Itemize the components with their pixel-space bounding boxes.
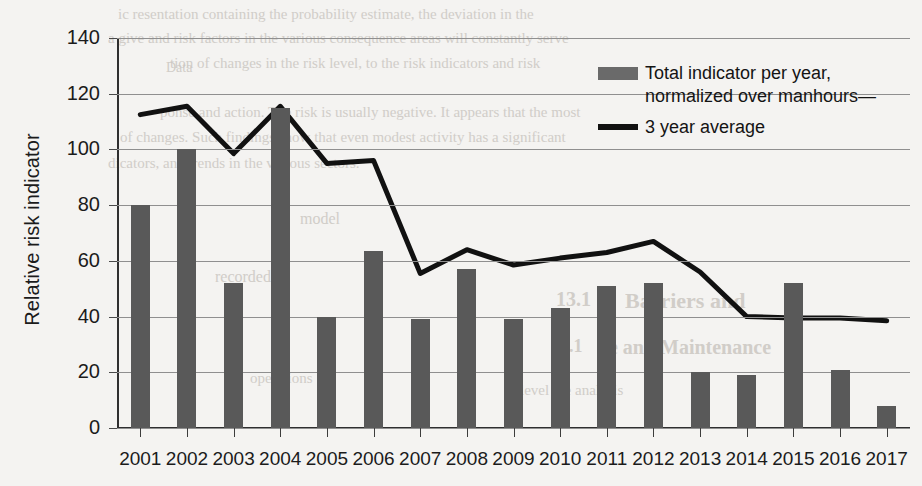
y-axis-tick [109, 205, 117, 206]
x-axis-label-2005: 2005 [306, 448, 348, 470]
y-axis-label: 120 [40, 82, 100, 105]
y-axis-tick [109, 149, 117, 150]
x-axis-label-2012: 2012 [632, 448, 674, 470]
legend-label-line: 3 year average [645, 116, 765, 139]
legend-item-line-series: 3 year average [598, 116, 908, 139]
y-axis-tick [109, 372, 117, 373]
chart-page: ic resentation containing the probabilit… [0, 0, 922, 486]
legend-label-bar: Total indicator per year, normalized ove… [645, 62, 876, 107]
x-axis-tick [514, 428, 515, 437]
x-axis-tick [793, 428, 794, 437]
x-axis-label-2009: 2009 [492, 448, 534, 470]
gridline [117, 149, 910, 150]
y-axis-tick [109, 261, 117, 262]
x-axis-tick [560, 428, 561, 437]
legend-label-bar-line1: Total indicator per year, [645, 63, 831, 83]
x-axis-label-2010: 2010 [539, 448, 581, 470]
legend-item-bar-series: Total indicator per year, normalized ove… [598, 62, 908, 107]
x-axis-tick [840, 428, 841, 437]
x-axis-tick [187, 428, 188, 437]
bar-2005 [317, 317, 336, 428]
x-axis-tick [374, 428, 375, 437]
x-axis-label-2002: 2002 [166, 448, 208, 470]
x-axis-label-2003: 2003 [212, 448, 254, 470]
y-axis-label: 60 [40, 249, 100, 272]
bar-2001 [131, 205, 150, 428]
y-axis-label: 20 [40, 360, 100, 383]
x-axis-tick [653, 428, 654, 437]
x-axis-tick [420, 428, 421, 437]
bar-2008 [457, 269, 476, 428]
y-axis-label: 80 [40, 193, 100, 216]
bar-2007 [411, 319, 430, 428]
y-axis-label: 0 [40, 416, 100, 439]
risk-indicator-chart: Relative risk indicator 0204060801001201… [0, 0, 922, 486]
x-axis-tick [607, 428, 608, 437]
chart-legend: Total indicator per year, normalized ove… [598, 62, 908, 148]
y-axis-label: 100 [40, 137, 100, 160]
x-axis-tick [140, 428, 141, 437]
bar-2009 [504, 319, 523, 428]
x-axis-tick [467, 428, 468, 437]
x-axis-label-2013: 2013 [679, 448, 721, 470]
x-axis-tick [887, 428, 888, 437]
x-axis-label-2006: 2006 [352, 448, 394, 470]
bar-2004 [271, 108, 290, 428]
bar-2015 [784, 283, 803, 428]
y-axis-tick [109, 317, 117, 318]
x-axis-tick [747, 428, 748, 437]
bar-2011 [597, 286, 616, 428]
x-axis-tick [327, 428, 328, 437]
y-axis-tick [109, 428, 117, 429]
bar-2006 [364, 251, 383, 428]
y-axis-tick [109, 38, 117, 39]
bar-2002 [177, 149, 196, 428]
bar-2003 [224, 283, 243, 428]
x-axis-tick [700, 428, 701, 437]
y-axis-label: 40 [40, 305, 100, 328]
bar-2012 [644, 283, 663, 428]
bar-2013 [691, 372, 710, 428]
line-swatch-icon [598, 124, 638, 130]
x-axis-label-2016: 2016 [819, 448, 861, 470]
bar-swatch-icon [598, 67, 638, 80]
gridline [117, 261, 910, 262]
x-axis-label-2015: 2015 [772, 448, 814, 470]
x-axis-label-2004: 2004 [259, 448, 301, 470]
x-axis-label-2014: 2014 [726, 448, 768, 470]
legend-label-bar-line2: normalized over manhours— [645, 85, 876, 108]
bar-2017 [877, 406, 896, 428]
x-axis-label-2008: 2008 [446, 448, 488, 470]
y-axis-tick [109, 94, 117, 95]
y-axis-label: 140 [40, 26, 100, 49]
bar-2010 [551, 308, 570, 428]
x-axis-tick [280, 428, 281, 437]
bar-2014 [737, 375, 756, 428]
gridline [117, 205, 910, 206]
x-axis-label-2007: 2007 [399, 448, 441, 470]
bar-2016 [831, 370, 850, 429]
x-axis-label-2001: 2001 [119, 448, 161, 470]
gridline [117, 38, 910, 39]
x-axis-label-2017: 2017 [866, 448, 908, 470]
x-axis-tick [234, 428, 235, 437]
x-axis-label-2011: 2011 [586, 448, 627, 470]
